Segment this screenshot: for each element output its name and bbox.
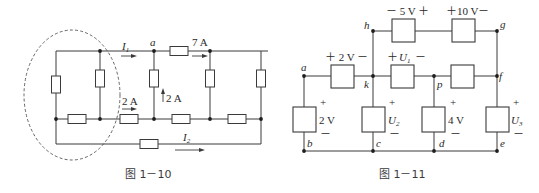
element-10V: [452, 19, 475, 42]
label-node-f: f: [499, 70, 504, 82]
node-h-dot: [371, 29, 375, 33]
node-c-dot: [371, 149, 375, 153]
element-U2: [362, 107, 385, 132]
label-node-k: k: [364, 78, 370, 90]
arrow-head: [131, 107, 137, 111]
label-plus: +: [513, 96, 519, 108]
label-minus: －: [389, 128, 400, 140]
label-minus: －: [320, 128, 331, 140]
node-b-dot: [302, 149, 306, 153]
node-dot: [208, 49, 212, 53]
element-2V-horizontal: [331, 65, 354, 88]
label-node-g: g: [500, 18, 506, 30]
node-e-dot: [495, 149, 499, 153]
element-U3: [486, 107, 509, 132]
element-4V: [422, 107, 445, 132]
resistor-v4: [206, 70, 215, 87]
label-node-p: p: [436, 78, 443, 90]
label-5V: － 5 V ＋: [386, 5, 429, 17]
element-5V: [392, 19, 415, 42]
figure-caption: 图 1－11: [379, 168, 426, 181]
node-g-dot: [495, 29, 499, 33]
label-minus: －: [513, 128, 524, 140]
node-p-dot: [432, 74, 436, 78]
label-U1: U1: [399, 51, 410, 65]
label-plus: +: [389, 96, 395, 108]
node-a-dot: [152, 49, 156, 53]
resistor-mid-2: [120, 115, 138, 124]
arrow-head: [131, 54, 137, 58]
label-2V-horizontal: ＋ 2 V －: [325, 51, 368, 63]
label-2V-vertical: 2 V: [319, 114, 335, 126]
label-U2: U2: [388, 114, 400, 128]
label-node-h: h: [364, 19, 370, 31]
resistor-v3: [150, 70, 159, 87]
label-7A: 7 A: [192, 36, 208, 48]
element-U1: [391, 65, 414, 88]
label-4V: 4 V: [448, 114, 464, 126]
arrow-head: [202, 54, 208, 58]
label-minus: －: [450, 128, 461, 140]
resistor-mid-1: [68, 115, 86, 124]
figure-caption: 图 1－10: [125, 168, 172, 181]
node-dot: [54, 117, 58, 121]
label-U3: U3: [511, 114, 523, 128]
resistor-v5: [257, 70, 266, 87]
label-node-b: b: [307, 137, 313, 149]
label-I1: I1: [121, 40, 129, 54]
arrow-head: [199, 148, 205, 152]
label-2A-vertical: 2 A: [166, 92, 182, 104]
resistor-mid-3: [172, 115, 190, 124]
resistor-mid-4: [228, 115, 246, 124]
label-node-c: c: [376, 137, 381, 149]
resistor-bottom: [140, 140, 158, 149]
circuit-diagrams: a I1 7 A 2 A 2 A I2 图 1－10: [0, 0, 539, 193]
label-plus: +: [450, 96, 456, 108]
element-2V-vertical: [293, 107, 316, 132]
resistor-top: [170, 47, 188, 56]
closed-surface-ellipse: [24, 30, 120, 160]
label-10V: ＋10 V－: [446, 5, 490, 17]
resistor-v1: [52, 76, 61, 93]
node-dot: [98, 49, 102, 53]
node-d-dot: [432, 149, 436, 153]
figure-1-11: h g a k p f b c d e － 5 V ＋ ＋10 V－ ＋ 2 V…: [293, 5, 524, 181]
node-dot: [259, 117, 263, 121]
label-U1-plus: ＋: [387, 51, 398, 63]
label-plus: +: [320, 96, 326, 108]
node-dot: [152, 117, 156, 121]
figure-1-10: a I1 7 A 2 A 2 A I2 图 1－10: [24, 30, 268, 181]
label-node-a: a: [301, 61, 307, 73]
node-dot: [208, 117, 212, 121]
node-k-dot: [371, 74, 375, 78]
label-node-e: e: [500, 137, 505, 149]
element-p-f: [451, 65, 474, 88]
label-2A-horizontal: 2 A: [122, 95, 138, 107]
label-U1-minus: －: [415, 51, 426, 63]
label-I2: I2: [182, 131, 191, 145]
node-a-dot: [302, 74, 306, 78]
label-node-d: d: [439, 137, 445, 149]
resistor-v2: [96, 70, 105, 87]
node-dot: [98, 117, 102, 121]
arrow-head: [161, 88, 165, 94]
label-node-a: a: [150, 36, 156, 48]
